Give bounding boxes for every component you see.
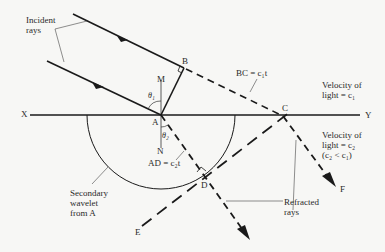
arrow-icon [237, 225, 250, 240]
point-label-a: A [152, 118, 159, 127]
point-label-n: N [157, 147, 164, 156]
leader-bc [250, 79, 257, 92]
arrow-icon [322, 172, 336, 187]
point-label-f: F [340, 185, 345, 194]
label-incident-rays: Incident rays [26, 15, 56, 35]
leader-incident-rays-upper [55, 24, 85, 29]
refraction-diagram: X Y A B C D E F M N θ₁ θ₂ Incident rays … [0, 0, 385, 252]
incident-ray-lower [47, 61, 161, 115]
angle-label-theta1: θ₁ [148, 91, 155, 100]
point-label-b: B [182, 57, 188, 66]
point-label-d: D [201, 181, 208, 190]
diagram-canvas [0, 0, 385, 252]
label-velocity-medium1: Velocity of light = c₁ [322, 80, 362, 100]
ray-bc-dashed [186, 69, 283, 116]
leader-incident-rays [55, 21, 87, 62]
point-label-y: Y [365, 111, 372, 120]
leader-wavelet [92, 167, 108, 184]
point-label-c: C [282, 104, 288, 113]
point-label-e: E [135, 228, 141, 237]
label-ad-equation: AD = c₂t [148, 158, 180, 168]
label-refracted-rays: Refracted rays [284, 197, 319, 217]
angle-theta2-arc [161, 125, 168, 127]
arrow-icon [117, 36, 128, 42]
angle-label-theta2: θ₂ [162, 131, 169, 140]
angle-theta1-arc [148, 101, 161, 109]
point-label-m: M [157, 75, 165, 84]
refracted-wavefront-ec [142, 112, 290, 226]
refracted-ray-ad [161, 115, 245, 233]
label-secondary-wavelet: Secondary wavelet from A [70, 188, 108, 218]
point-label-x: X [21, 110, 28, 119]
label-bc-equation: BC = c₁t [236, 68, 267, 78]
label-velocity-medium2: Velocity of light = c₂ (c₂ < c₁) [322, 130, 362, 160]
incident-ray-upper [73, 14, 184, 68]
